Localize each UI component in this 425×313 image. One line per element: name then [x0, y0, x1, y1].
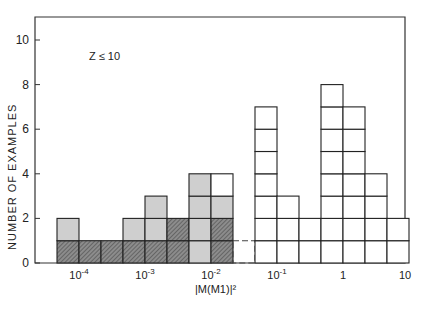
histogram-box [79, 241, 101, 263]
histogram-box [365, 174, 387, 196]
histogram-box [255, 218, 277, 240]
histogram-box [255, 174, 277, 196]
x-tick-label: 10-1 [267, 267, 287, 281]
x-tick-label: 1 [340, 269, 346, 281]
y-tick-label: 4 [22, 167, 29, 181]
x-tick-label: 10-4 [69, 267, 89, 281]
histogram-box [255, 152, 277, 174]
histogram-box [321, 218, 343, 240]
histogram-box [211, 196, 233, 218]
histogram-box [101, 241, 123, 263]
x-axis-label: |M(M1)|² [195, 283, 236, 295]
histogram-box [299, 241, 321, 263]
histogram-box [145, 241, 167, 263]
histogram-box [343, 129, 365, 151]
histogram-box [343, 152, 365, 174]
histogram-box [57, 218, 79, 240]
histogram: 024681010-410-310-210-1110 [0, 0, 425, 313]
histogram-box [123, 241, 145, 263]
histogram-box [321, 241, 343, 263]
histogram-box [343, 107, 365, 129]
histogram-box [365, 196, 387, 218]
histogram-box [343, 196, 365, 218]
histogram-box [255, 107, 277, 129]
histogram-box [211, 174, 233, 196]
histogram-box [321, 152, 343, 174]
histogram-box [189, 241, 211, 263]
histogram-box [189, 174, 211, 196]
histogram-box [57, 241, 79, 263]
histogram-box [189, 196, 211, 218]
histogram-box [167, 241, 189, 263]
histogram-box [365, 218, 387, 240]
histogram-box [255, 196, 277, 218]
histogram-box [211, 218, 233, 240]
histogram-box [277, 218, 299, 240]
histogram-box [321, 85, 343, 107]
y-tick-label: 0 [22, 256, 29, 270]
histogram-box [167, 218, 189, 240]
histogram-box [145, 218, 167, 240]
histogram-box [189, 218, 211, 240]
histogram-box [365, 241, 387, 263]
y-tick-label: 8 [22, 78, 29, 92]
histogram-box [277, 196, 299, 218]
histogram-box [387, 241, 409, 263]
histogram-box [321, 107, 343, 129]
histogram-box [343, 174, 365, 196]
histogram-box [387, 218, 409, 240]
x-tick-label: 10-3 [135, 267, 155, 281]
histogram-box [233, 241, 255, 263]
histogram-box [299, 218, 321, 240]
x-tick-label: 10 [399, 269, 411, 281]
histogram-box [277, 241, 299, 263]
histogram-box [321, 174, 343, 196]
histogram-box [255, 129, 277, 151]
histogram-box [343, 241, 365, 263]
y-tick-label: 6 [22, 122, 29, 136]
histogram-box [343, 218, 365, 240]
histogram-box [211, 241, 233, 263]
annotation-z: Z ≤ 10 [89, 50, 120, 62]
histogram-box [321, 196, 343, 218]
histogram-box [145, 196, 167, 218]
y-tick-label: 10 [16, 33, 30, 47]
y-axis-label: NUMBER OF EXAMPLES [6, 104, 18, 250]
x-tick-label: 10-2 [201, 267, 221, 281]
y-tick-label: 2 [22, 211, 29, 225]
histogram-box [321, 129, 343, 151]
histogram-box [255, 241, 277, 263]
histogram-box [123, 218, 145, 240]
